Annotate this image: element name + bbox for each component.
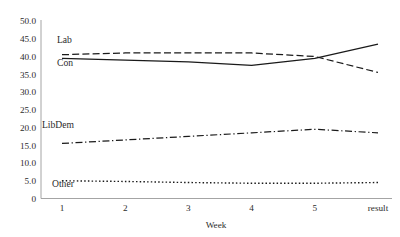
series-line-libdem: [62, 129, 378, 143]
y-tick-label: 20.0: [20, 123, 36, 133]
y-tick-label: 35.0: [20, 70, 36, 80]
x-tick-label: 2: [123, 203, 128, 213]
series-label-con: Con: [57, 57, 73, 68]
series-line-con: [62, 44, 378, 65]
series-line-other: [62, 181, 378, 183]
y-tick-label: 30.0: [20, 87, 36, 97]
series-label-libdem: LibDem: [42, 119, 75, 130]
y-tick-label: 5.0: [25, 176, 37, 186]
x-tick-label: 5: [313, 203, 318, 213]
x-tick-label: result: [368, 203, 389, 213]
series-line-lab: [62, 53, 378, 73]
x-axis-tick-labels: 12345result: [60, 203, 389, 213]
x-tick-label: 4: [249, 203, 254, 213]
chart-canvas: 05.010.015.020.025.030.035.040.045.050.0…: [0, 0, 400, 237]
y-tick-label: 10.0: [20, 158, 36, 168]
series-paths-group: [62, 44, 378, 183]
line-chart: 05.010.015.020.025.030.035.040.045.050.0…: [0, 0, 400, 237]
y-tick-label: 45.0: [20, 34, 36, 44]
x-tick-label: 3: [186, 203, 191, 213]
series-inline-labels: ConLabLibDemOther: [42, 34, 75, 189]
series-label-lab: Lab: [57, 34, 72, 45]
series-label-other: Other: [52, 178, 75, 189]
y-tick-label: 40.0: [20, 52, 36, 62]
y-axis-tick-labels: 05.010.015.020.025.030.035.040.045.050.0: [20, 16, 36, 204]
y-tick-label: 0: [31, 194, 36, 204]
y-tick-label: 50.0: [20, 16, 36, 26]
y-tick-label: 15.0: [20, 141, 36, 151]
y-tick-label: 25.0: [20, 105, 36, 115]
x-tick-label: 1: [60, 203, 65, 213]
x-axis-title: Week: [206, 220, 227, 230]
